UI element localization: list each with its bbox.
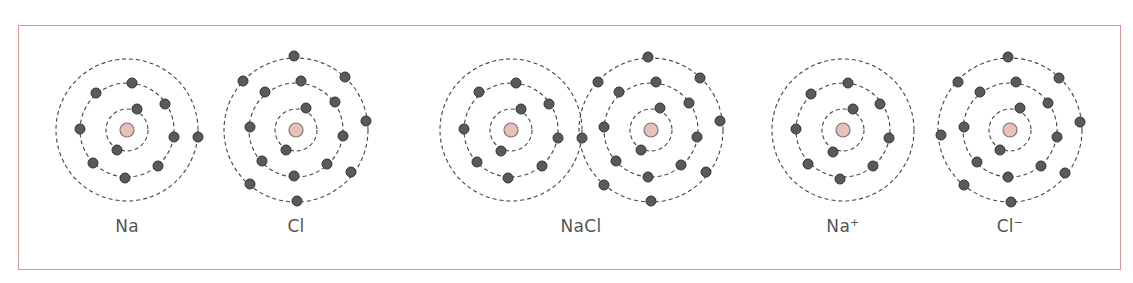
- label-na-ion: Na+: [826, 216, 859, 236]
- atom-diagram: [0, 0, 1133, 283]
- nacl-na-nucleus: [504, 123, 518, 137]
- na-ion-charge: +: [850, 216, 860, 229]
- cl-ion-nucleus: [1003, 123, 1017, 137]
- electrons: [75, 51, 1085, 207]
- na-ion-nucleus: [836, 123, 850, 137]
- label-cl: Cl: [287, 216, 304, 236]
- nacl-shells: [440, 58, 723, 202]
- label-na: Na: [115, 216, 139, 236]
- nacl-cl-nucleus: [644, 123, 658, 137]
- cl-ion-symbol: Cl: [997, 216, 1014, 236]
- cl-ion-charge: −: [1014, 216, 1024, 229]
- label-nacl: NaCl: [561, 216, 602, 236]
- label-cl-ion: Cl−: [997, 216, 1024, 236]
- na-ion-symbol: Na: [826, 216, 850, 236]
- cl-nucleus: [289, 123, 303, 137]
- na-nucleus: [120, 123, 134, 137]
